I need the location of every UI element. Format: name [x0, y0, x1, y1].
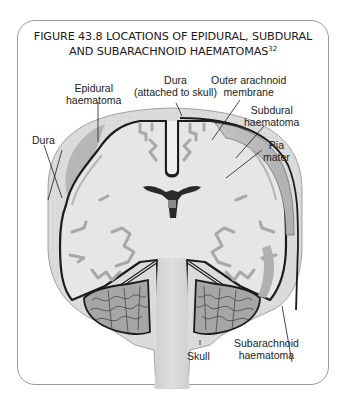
falx-cerebri	[166, 121, 178, 175]
label-epidural-haematoma: Epidural haematoma	[66, 82, 121, 106]
label-subdural-haematoma: Subdural haematoma	[244, 104, 299, 128]
label-line: Dura	[164, 74, 187, 86]
label-dura: Dura	[32, 134, 55, 146]
label-line: Subdural	[251, 104, 293, 116]
label-line: Dura	[32, 134, 55, 146]
label-dura-attached: Dura (attached to skull)	[134, 74, 217, 98]
label-skull: Skull	[187, 350, 210, 362]
label-line: haematoma	[239, 349, 294, 361]
label-outer-arachnoid-membrane: Outer arachnoid membrane	[211, 74, 286, 98]
brainstem	[154, 258, 190, 388]
label-line: Outer arachnoid	[211, 74, 286, 86]
label-line: (attached to skull)	[134, 86, 217, 98]
label-line: haematoma	[66, 94, 121, 106]
label-line: Skull	[187, 350, 210, 362]
label-line: Pia	[269, 139, 284, 151]
label-pia-mater: Pia mater	[263, 139, 290, 163]
label-line: haematoma	[244, 116, 299, 128]
label-line: mater	[263, 151, 290, 163]
label-line: Subarachnoid	[234, 337, 299, 349]
label-line: Epidural	[74, 82, 113, 94]
label-line: membrane	[224, 86, 274, 98]
label-subarachnoid-haematoma: Subarachnoid haematoma	[234, 337, 299, 361]
